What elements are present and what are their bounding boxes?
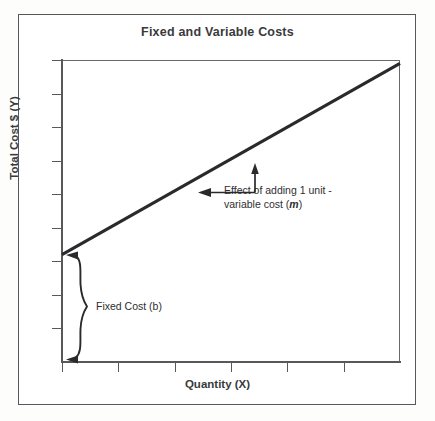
x-axis-tick <box>62 363 63 372</box>
slope-annotation-line1: Effect of adding 1 unit - <box>224 184 332 196</box>
y-axis-tick <box>52 194 61 195</box>
slope-annotation-line2-end: ) <box>299 198 303 210</box>
fixed-cost-annotation: Fixed Cost (b) <box>96 300 162 312</box>
y-axis-tick <box>52 228 61 229</box>
slope-annotation: Effect of adding 1 unit - variable cost … <box>224 184 374 211</box>
y-axis-title: Total Cost $ (Y) <box>8 8 20 268</box>
x-axis-tick <box>287 363 288 372</box>
x-axis-tick <box>231 363 232 372</box>
y-axis-tick <box>52 94 61 95</box>
cost-chart-figure: Fixed and Variable Costs Total Cost $ (Y… <box>0 0 435 421</box>
slope-variable-symbol: m <box>289 198 298 210</box>
y-axis-tick <box>52 328 61 329</box>
y-axis-tick <box>52 261 61 262</box>
slope-annotation-line2: variable cost ( <box>224 198 289 210</box>
y-axis-line <box>61 59 63 363</box>
y-axis-tick <box>52 161 61 162</box>
y-axis-tick <box>52 295 61 296</box>
y-axis-tick <box>52 127 61 128</box>
x-axis-tick <box>344 363 345 372</box>
y-axis-tick <box>52 60 61 61</box>
chart-title: Fixed and Variable Costs <box>0 25 435 39</box>
plot-frame <box>62 60 400 362</box>
x-axis-tick <box>175 363 176 372</box>
x-axis-tick <box>118 363 119 372</box>
x-axis-title: Quantity (X) <box>0 378 435 390</box>
plot-area <box>62 60 400 362</box>
